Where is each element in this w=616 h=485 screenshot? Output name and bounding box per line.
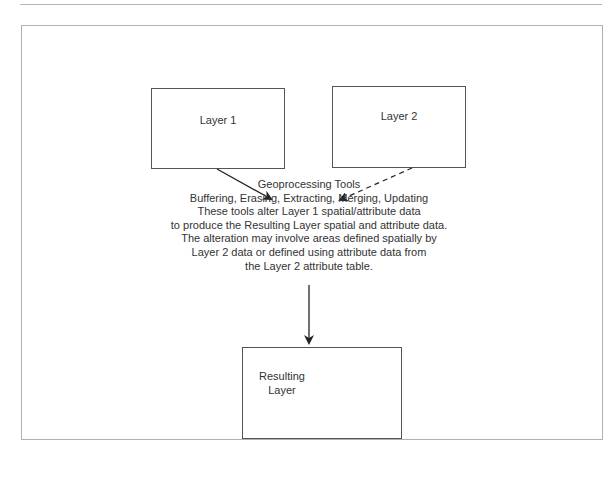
desc-line: Layer 2 data or defined using attribute …: [150, 246, 468, 260]
geoprocessing-description: Geoprocessing Tools Buffering, Erasing, …: [150, 178, 468, 273]
desc-line: the Layer 2 attribute table.: [150, 260, 468, 274]
desc-line: Buffering, Erasing, Extracting, Merging,…: [150, 192, 468, 206]
desc-line: to produce the Resulting Layer spatial a…: [150, 219, 468, 233]
desc-line: These tools alter Layer 1 spatial/attrib…: [150, 205, 468, 219]
desc-title: Geoprocessing Tools: [150, 178, 468, 192]
desc-line: The alteration may involve areas defined…: [150, 232, 468, 246]
